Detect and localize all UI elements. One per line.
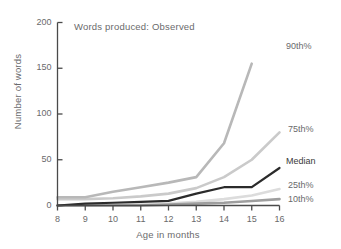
x-tick-label: 14 <box>215 214 233 224</box>
chart-container: Words produced: Observed Number of words… <box>0 0 341 249</box>
x-tick-label: 13 <box>187 214 205 224</box>
series-label-p25: 25th% <box>288 180 314 190</box>
x-tick-label: 9 <box>76 214 94 224</box>
series-line-75th <box>58 132 280 199</box>
chart-title: Words produced: Observed <box>74 21 195 32</box>
x-axis-title: Age in months <box>108 229 228 240</box>
x-tick-label: 11 <box>132 214 150 224</box>
x-tick-label: 15 <box>243 214 261 224</box>
series-label-p90: 90th% <box>286 41 312 51</box>
y-tick-label: 100 <box>26 108 52 118</box>
series-label-median: Median <box>286 156 316 166</box>
x-tick-label: 12 <box>160 214 178 224</box>
y-tick-label: 50 <box>26 154 52 164</box>
x-tick-label: 10 <box>104 214 122 224</box>
series-label-p10: 10th% <box>288 194 314 204</box>
y-axis-title: Number of words <box>12 37 23 147</box>
series-layer <box>58 64 280 206</box>
x-tick-label: 8 <box>49 214 67 224</box>
series-label-p75: 75th% <box>288 124 314 134</box>
y-tick-label: 0 <box>26 200 52 210</box>
x-tick-label: 16 <box>271 214 289 224</box>
y-tick-label: 200 <box>26 17 52 27</box>
y-tick-label: 150 <box>26 62 52 72</box>
